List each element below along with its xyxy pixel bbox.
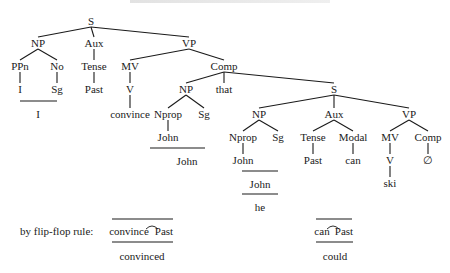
leaf-ski: ski bbox=[384, 177, 397, 189]
syntax-tree-diagram: S NP Aux VP PPn No Tense MV Comp I Sg Pa… bbox=[0, 0, 450, 273]
rule2-left: can bbox=[314, 225, 329, 237]
node-emb-aux: Aux bbox=[325, 108, 344, 120]
leaf-that: that bbox=[216, 83, 233, 95]
leaf-convince: convince bbox=[110, 108, 150, 120]
node-s-root: S bbox=[88, 15, 94, 27]
leaf-comp-sg: Sg bbox=[198, 108, 210, 120]
node-emb-modal: Modal bbox=[339, 131, 368, 143]
node-ppn: PPn bbox=[11, 60, 29, 72]
leaf-can: can bbox=[345, 154, 360, 166]
merged-john: John bbox=[177, 155, 198, 167]
rule2-result: could bbox=[323, 250, 347, 262]
rule1-left: convince bbox=[109, 225, 149, 237]
node-mv: MV bbox=[121, 60, 139, 72]
node-emb-v: V bbox=[386, 154, 394, 166]
leaf-i: I bbox=[18, 83, 22, 95]
leaf-emb-john: John bbox=[233, 154, 254, 166]
node-emb-vp: VP bbox=[402, 108, 416, 120]
flipflop-label: by flip-flop rule: bbox=[20, 225, 93, 237]
rule2-right: Past bbox=[335, 225, 353, 237]
node-emb-mv: MV bbox=[381, 131, 399, 143]
leaf-sg: Sg bbox=[51, 83, 63, 95]
node-aux: Aux bbox=[85, 37, 104, 49]
node-vp: VP bbox=[182, 37, 196, 49]
node-emb-comp: Comp bbox=[415, 131, 442, 143]
pronoun-he: he bbox=[255, 201, 265, 213]
node-comp-np: NP bbox=[179, 83, 193, 95]
node-emb-nprop: Nprop bbox=[229, 131, 257, 143]
node-comp: Comp bbox=[211, 60, 238, 72]
node-v: V bbox=[126, 83, 134, 95]
node-tense: Tense bbox=[81, 60, 107, 72]
node-nprop: Nprop bbox=[154, 108, 182, 120]
leaf-past: Past bbox=[85, 83, 103, 95]
node-emb-tense: Tense bbox=[300, 131, 326, 143]
leaf-john: John bbox=[158, 131, 179, 143]
rule1-result: convinced bbox=[119, 250, 164, 262]
leaf-null: ∅ bbox=[423, 154, 433, 166]
node-emb-np: NP bbox=[252, 108, 266, 120]
rule1-right: Past bbox=[155, 225, 173, 237]
node-s-embedded: S bbox=[331, 83, 337, 95]
node-np: NP bbox=[31, 37, 45, 49]
leaf-emb-sg: Sg bbox=[272, 131, 284, 143]
node-no: No bbox=[50, 60, 63, 72]
leaf-emb-past: Past bbox=[304, 154, 322, 166]
merged-emb-john: John bbox=[250, 178, 271, 190]
merged-i: I bbox=[36, 108, 40, 120]
